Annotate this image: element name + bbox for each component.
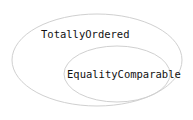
equality-comparable-label: EqualityComparable <box>67 68 181 80</box>
euler-diagram: TotallyOrdered EqualityComparable <box>0 0 193 120</box>
totally-ordered-label: TotallyOrdered <box>41 28 130 40</box>
